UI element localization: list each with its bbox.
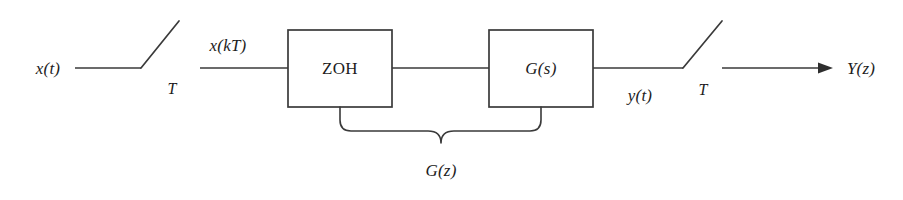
label-block-gs: G(s) [525, 60, 556, 77]
label-y-of-t: y(t) [628, 87, 652, 104]
label-sampling-period-right: T [698, 82, 707, 98]
label-x-of-t: x(t) [36, 60, 60, 77]
label-sampling-period-left: T [167, 81, 176, 97]
label-x-of-kT: x(kT) [210, 37, 247, 54]
output-sampler-switch-arm [683, 21, 722, 68]
label-Y-of-z: Y(z) [847, 60, 875, 77]
input-sampler-switch-arm [141, 21, 179, 68]
label-g-of-z: G(z) [425, 162, 456, 179]
block-diagram-canvas: x(t) T x(kT) ZOH G(s) y(t) T G(z) Y(z) [0, 0, 903, 200]
label-block-zoh: ZOH [322, 60, 358, 77]
output-arrow-head-icon [818, 63, 833, 74]
brace-gz [340, 107, 541, 143]
